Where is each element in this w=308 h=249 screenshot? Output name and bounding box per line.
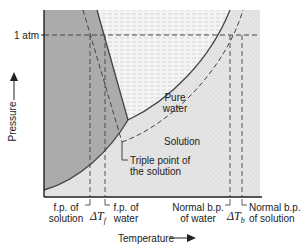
bp-water-line2: of water <box>170 213 226 224</box>
pressure-arrow-head <box>10 72 18 81</box>
delta-tf-label: ΔTf <box>90 211 106 226</box>
fp-solution-label: f.p. of solution <box>46 202 86 224</box>
bp-solution-label: Normal b.p. of solution <box>249 202 301 224</box>
delta-tb-symbol: ΔT <box>227 209 241 223</box>
pressure-axis-label: Pressure <box>7 101 18 141</box>
triple-point-label: Triple point of the solution <box>130 155 190 177</box>
bp-solution-bracket <box>242 199 247 205</box>
delta-tf-symbol: ΔT <box>90 209 104 223</box>
triple-point-line2: the solution <box>130 166 190 177</box>
delta-tb-sub: b <box>241 216 245 225</box>
temperature-arrow-head <box>187 234 196 242</box>
delta-tb-label: ΔTb <box>227 211 245 226</box>
fp-solution-line2: solution <box>46 213 86 224</box>
bp-water-line1: Normal b.p. <box>170 202 226 213</box>
delta-tf-sub: f <box>104 216 106 225</box>
bp-solution-line1: Normal b.p. <box>249 202 301 213</box>
solution-label: Solution <box>164 136 200 147</box>
one-atm-label: 1 atm <box>14 30 39 41</box>
triple-point-line1: Triple point of <box>130 155 190 166</box>
fp-water-line2: water <box>108 213 144 224</box>
fp-solution-line1: f.p. of <box>46 202 86 213</box>
fp-water-line1: f.p. of <box>108 202 144 213</box>
fp-water-label: f.p. of water <box>108 202 144 224</box>
temperature-axis-label: Temperature <box>118 233 174 244</box>
bp-water-label: Normal b.p. of water <box>170 202 226 224</box>
pure-water-label-line2: water <box>155 103 195 114</box>
pure-water-label-line1: Pure <box>155 92 195 103</box>
pure-water-label: Pure water <box>155 92 195 114</box>
bp-solution-line2: of solution <box>249 213 301 224</box>
